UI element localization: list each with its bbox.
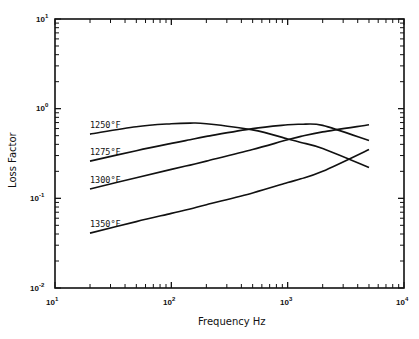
curve-1350f xyxy=(90,150,369,234)
curve-label-1350f: 1350°F xyxy=(90,219,121,229)
curve-1300f xyxy=(90,125,369,189)
y-tick-label-1: 101 xyxy=(36,13,49,24)
curve-label-1300f: 1300°F xyxy=(90,175,121,185)
data-curves xyxy=(90,123,369,233)
x-tick-label-10: 101 xyxy=(46,296,59,307)
y-tick-label-0: 100 xyxy=(36,102,49,113)
y-tick-label-minus-2: 10-2 xyxy=(30,282,45,293)
curve-1250f xyxy=(90,123,369,168)
curve-label-1275f: 1275°F xyxy=(90,147,121,157)
curve-label-1250f: 1250°F xyxy=(90,120,121,130)
x-axis-title: Frequency Hz xyxy=(198,316,266,327)
y-tick-label-minus-1: 10-1 xyxy=(30,192,45,203)
x-tick-label-10000: 104 xyxy=(396,296,409,307)
curve-labels: 1250°F1275°F1300°F1350°F xyxy=(90,120,121,229)
loss-factor-chart: 1250°F1275°F1300°F1350°F 101 100 10-1 10… xyxy=(0,0,419,339)
x-tick-label-1000: 103 xyxy=(280,296,293,307)
y-axis-title: Loss Factor xyxy=(7,131,18,188)
x-tick-label-100: 102 xyxy=(163,296,176,307)
